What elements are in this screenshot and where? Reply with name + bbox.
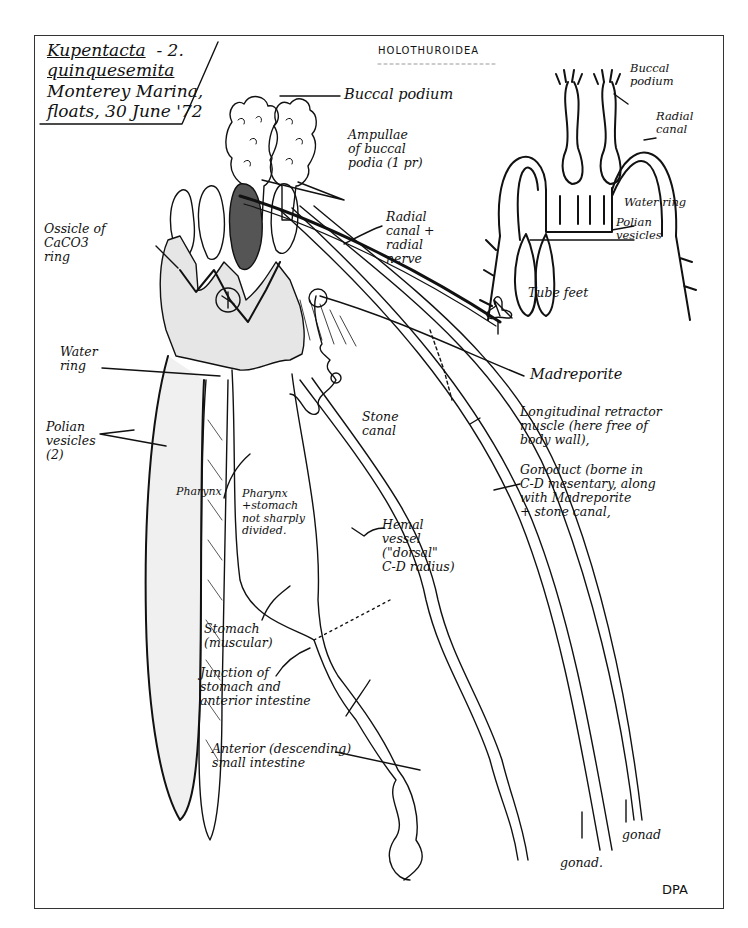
label-junction: Junction of stomach and anterior intesti… <box>200 666 311 708</box>
label-anterior-intestine: Anterior (descending) small intestine <box>212 742 351 770</box>
label-buccal-podium: Buccal podium <box>344 86 453 102</box>
label-pharynx: Pharynx <box>176 486 222 498</box>
label-longitudinal-retractor: Longitudinal retractor muscle (here free… <box>520 405 662 447</box>
label-ossicle: Ossicle of CaCO3 ring <box>44 222 106 264</box>
label-stone-canal: Stone canal <box>362 410 399 438</box>
label-madreporite: Madreporite <box>530 366 622 382</box>
label-tube-feet: Tube feet <box>528 286 588 300</box>
label-water-ring: Water ring <box>60 345 98 373</box>
inset-label-buccal-podium: Buccal podium <box>630 62 674 88</box>
inset-label-polian-vesicles: Polian vesicles <box>616 216 662 242</box>
class-header: HOLOTHUROIDEA <box>378 45 479 56</box>
inset-label-radial-canal: Radial canal <box>656 110 693 136</box>
plate-number: - 2. <box>156 40 183 60</box>
label-pharynx-stomach: Pharynx +stomach not sharply divided. <box>242 488 305 537</box>
label-ampullae: Ampullae of buccal podia (1 pr) <box>348 128 423 170</box>
label-stomach: Stomach (muscular) <box>204 622 273 650</box>
genus-name: Kupentacta <box>47 40 146 60</box>
label-polian-vesicles: Polian vesicles (2) <box>46 420 96 462</box>
label-gonoduct: Gonoduct (borne in C-D mesentary, along … <box>520 463 656 519</box>
label-gonad-left: gonad. <box>560 856 603 870</box>
label-gonad-right: gonad <box>622 828 661 842</box>
title-block: Kupentacta - 2. quinquesemita Monterey M… <box>47 40 203 122</box>
locality: Monterey Marina, <box>47 81 203 101</box>
species-name: quinquesemita <box>47 60 203 80</box>
label-hemal-vessel: Hemal vessel ("dorsal" C-D radius) <box>382 518 455 574</box>
collection-date: floats, 30 June '72 <box>47 101 203 121</box>
artist-signature: DPA <box>662 882 688 897</box>
label-radial-canal-nerve: Radial canal + radial nerve <box>386 210 434 266</box>
inset-label-water-ring: Water ring <box>624 196 686 209</box>
